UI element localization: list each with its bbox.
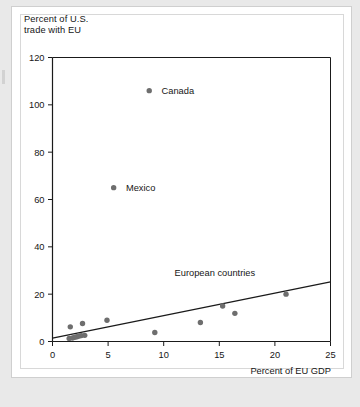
x-axis-tick-label: 10 [159,350,169,360]
data-point [82,333,87,338]
y-axis-tick-label: 100 [29,100,45,110]
y-axis-tick-label: 60 [34,195,44,205]
y-axis-tick-label: 40 [34,242,44,252]
figure-root: Percent of U.S. trade with EU Percent of… [0,0,360,407]
data-point [147,88,152,93]
data-point-label: Canada [162,86,195,96]
x-axis-tick-label: 5 [106,350,111,360]
data-point [104,318,109,323]
y-axis-tick-label: 0 [39,337,44,347]
data-point [152,330,157,335]
data-point [283,291,288,296]
data-point [232,311,237,316]
data-point [198,320,203,325]
plot-canvas: 0204060801001200510152025European countr… [0,0,360,407]
y-axis-tick-label: 20 [34,290,44,300]
x-axis-tick-label: 15 [214,350,224,360]
data-point [80,321,85,326]
data-point [111,185,116,190]
x-axis-tick-label: 0 [50,350,55,360]
data-point-label: Mexico [126,183,155,193]
y-axis-tick-label: 80 [34,148,44,158]
data-point [220,303,225,308]
y-axis-tick-label: 120 [29,53,45,63]
x-axis-tick-label: 20 [270,350,280,360]
scatter-chart: Percent of U.S. trade with EU Percent of… [0,0,360,407]
data-point [68,324,73,329]
trend-line-label: European countries [175,268,256,278]
trend-line [53,282,331,338]
x-axis-tick-label: 25 [325,350,335,360]
